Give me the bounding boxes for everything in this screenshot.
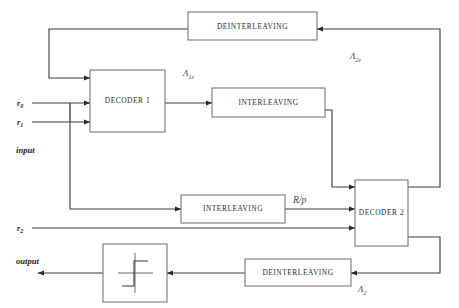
- block-deinterleaving-top: DEINTERLEAVING: [188, 12, 317, 40]
- signal-label-r1: r1: [17, 118, 23, 128]
- block-decoder1: DECODER 1: [90, 70, 165, 132]
- label-lambda-1e: Λ1e: [182, 68, 194, 80]
- turbo-decoder-diagram: DEINTERLEAVING DECODER 1 INTERLEAVING IN…: [0, 0, 459, 308]
- wire-interleaving-top-to-decoder2: [325, 110, 355, 187]
- label-lambda-2: Λ2: [357, 284, 366, 296]
- diagram-canvas: DEINTERLEAVING DECODER 1 INTERLEAVING IN…: [0, 0, 459, 308]
- interleaving-bottom-label: INTERLEAVING: [203, 204, 263, 213]
- deinterleaving-bottom-label: DEINTERLEAVING: [262, 268, 333, 277]
- block-interleaving-top: INTERLEAVING: [212, 88, 325, 117]
- signal-label-r2: r2: [17, 224, 23, 234]
- interleaving-top-label: INTERLEAVING: [238, 98, 298, 107]
- block-interleaving-bottom: INTERLEAVING: [181, 195, 285, 223]
- label-lambda-2e: Λ2e: [349, 51, 361, 63]
- input-label: input: [16, 145, 35, 155]
- block-decoder2: DECODER 2: [355, 180, 408, 246]
- label-rp: R/p: [292, 195, 306, 205]
- decoder1-label: DECODER 1: [105, 96, 150, 105]
- block-deinterleaving-bottom: DEINTERLEAVING: [245, 259, 351, 286]
- deinterleaving-top-label: DEINTERLEAVING: [217, 22, 288, 31]
- decoder2-label: DECODER 2: [359, 208, 404, 217]
- signal-label-r0: r0: [17, 99, 23, 109]
- wire-lambda2e-feedback: [317, 29, 440, 187]
- block-hard-decision: [103, 244, 167, 302]
- output-label: output: [16, 256, 40, 266]
